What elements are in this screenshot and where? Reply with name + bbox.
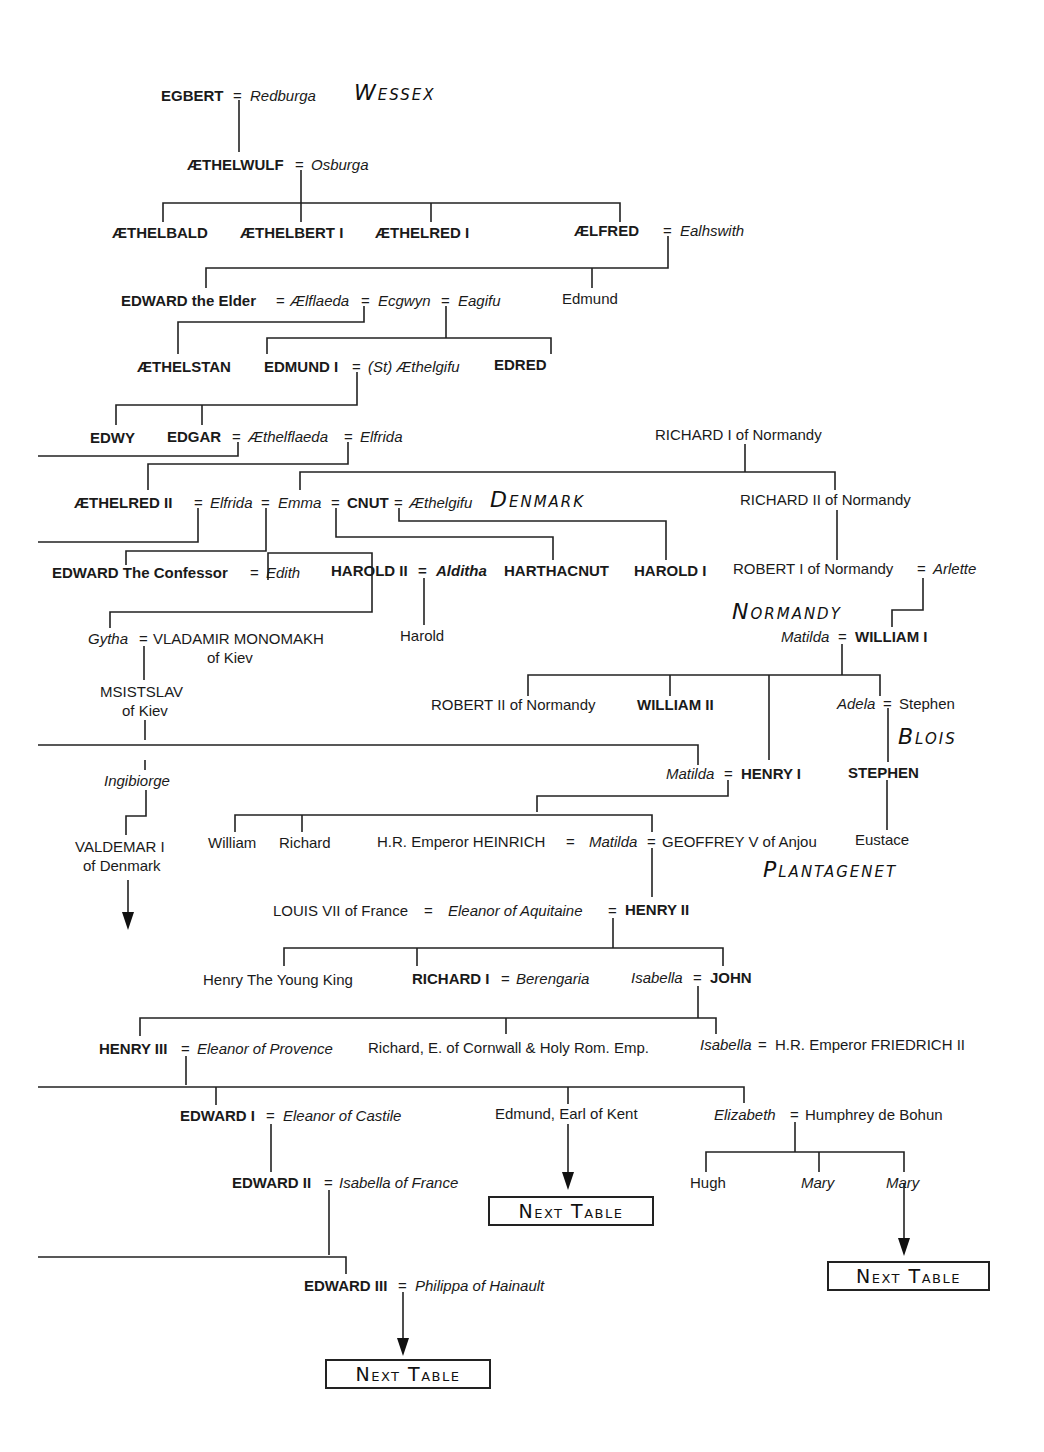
person-vladamir-monomakh: VLADAMIR MONOMAKH xyxy=(153,630,324,648)
person-robert-i-normandy: ROBERT I of Normandy xyxy=(733,560,893,578)
person-ealhswith: Ealhswith xyxy=(680,222,744,240)
person-harthacnut: HARTHACNUT xyxy=(504,562,609,580)
person-stephen-of-blois: Stephen xyxy=(899,695,955,713)
person-mary-2: Mary xyxy=(886,1174,919,1192)
marriage-sign: = xyxy=(261,494,270,512)
person-aelfred: ÆLFRED xyxy=(574,222,639,240)
marriage-sign: = xyxy=(398,1277,407,1295)
marriage-sign: = xyxy=(194,494,203,512)
person-adela: Adela xyxy=(837,695,875,713)
person-matilda-of-scotland: Matilda xyxy=(666,765,714,783)
person-aethelflaeda: Æthelflaeda xyxy=(248,428,328,446)
marriage-sign: = xyxy=(647,833,656,851)
marriage-sign: = xyxy=(663,222,672,240)
person-valdemar-i: VALDEMAR I xyxy=(75,838,165,856)
next-table-link-kent[interactable]: Next Table xyxy=(488,1196,654,1226)
person-cnut: CNUT xyxy=(347,494,389,512)
person-william: William xyxy=(208,834,256,852)
person-richard-ii-normandy: RICHARD II of Normandy xyxy=(740,491,911,509)
person-alditha: Alditha xyxy=(436,562,487,580)
person-harold-son: Harold xyxy=(400,627,444,645)
person-william-ii: WILLIAM II xyxy=(637,696,714,714)
person-edwy: EDWY xyxy=(90,429,135,447)
person-eustace: Eustace xyxy=(855,831,909,849)
marriage-sign: = xyxy=(724,765,733,783)
person-john: JOHN xyxy=(710,969,752,987)
person-richard: Richard xyxy=(279,834,331,852)
tree-connectors xyxy=(0,0,1044,1452)
person-emma: Emma xyxy=(278,494,321,512)
next-table-link-bohun[interactable]: Next Table xyxy=(827,1261,990,1291)
person-elfrida: Elfrida xyxy=(360,428,403,446)
person-arlette: Arlette xyxy=(933,560,976,578)
person-humphrey-de-bohun: Humphrey de Bohun xyxy=(805,1106,943,1124)
person-william-i: WILLIAM I xyxy=(855,628,927,646)
person-henry-iii: HENRY III xyxy=(99,1040,167,1058)
marriage-sign: = xyxy=(566,833,575,851)
marriage-sign: = xyxy=(295,156,304,174)
marriage-sign: = xyxy=(501,970,510,988)
person-osburga: Osburga xyxy=(311,156,369,174)
person-richard-i-normandy: RICHARD I of Normandy xyxy=(655,426,822,444)
marriage-sign: = xyxy=(232,428,241,446)
person-henry-i: HENRY I xyxy=(741,765,801,783)
house-label-normandy: Normandy xyxy=(732,599,842,624)
marriage-sign: = xyxy=(441,292,450,310)
person-eagifu: Eagifu xyxy=(458,292,501,310)
person-eleanor-of-provence: Eleanor of Provence xyxy=(197,1040,333,1058)
person-redburga: Redburga xyxy=(250,87,316,105)
person-aelflaeda: Ælflaeda xyxy=(290,292,349,310)
marriage-sign: = xyxy=(324,1174,333,1192)
person-edward-the-elder: EDWARD the Elder xyxy=(121,292,256,310)
person-isabella-of-france: Isabella of France xyxy=(339,1174,458,1192)
person-st-aethelgifu: (St) Æthelgifu xyxy=(368,358,460,376)
marriage-sign: = xyxy=(181,1040,190,1058)
person-edmund-earl-of-kent: Edmund, Earl of Kent xyxy=(495,1105,638,1123)
person-edred: EDRED xyxy=(494,356,547,374)
house-label-plantagenet: Plantagenet xyxy=(763,857,897,882)
marriage-sign: = xyxy=(250,564,259,582)
person-aethelstan: ÆTHELSTAN xyxy=(137,358,231,376)
person-eleanor-of-castile: Eleanor of Castile xyxy=(283,1107,401,1125)
person-egbert: EGBERT xyxy=(161,87,224,105)
person-edmund: Edmund xyxy=(562,290,618,308)
person-geoffrey-v-anjou: GEOFFREY V of Anjou xyxy=(662,833,817,851)
next-table-link-edward-iii[interactable]: Next Table xyxy=(325,1359,491,1389)
person-edward-the-confessor: EDWARD The Confessor xyxy=(52,564,228,582)
person-berengaria: Berengaria xyxy=(516,970,589,988)
marriage-sign: = xyxy=(139,630,148,648)
person-valdemar-title: of Denmark xyxy=(83,857,161,875)
marriage-sign: = xyxy=(424,902,433,920)
marriage-sign: = xyxy=(344,428,353,446)
marriage-sign: = xyxy=(418,562,427,580)
person-aethelred-ii: ÆTHELRED II xyxy=(74,494,172,512)
person-louis-vii: LOUIS VII of France xyxy=(273,902,408,920)
marriage-sign: = xyxy=(883,695,892,713)
person-edith: Edith xyxy=(266,564,300,582)
person-aethelbald: ÆTHELBALD xyxy=(112,224,208,242)
house-label-blois: Blois xyxy=(898,724,957,749)
marriage-sign: = xyxy=(838,628,847,646)
person-msistslav: MSISTSLAV xyxy=(100,683,183,701)
person-elfrida-2: Elfrida xyxy=(210,494,253,512)
person-richard-earl-of-cornwall: Richard, E. of Cornwall & Holy Rom. Emp. xyxy=(368,1039,649,1057)
person-henry-ii: HENRY II xyxy=(625,901,689,919)
person-aethelred-i: ÆTHELRED I xyxy=(375,224,469,242)
person-aethelgifu: Æthelgifu xyxy=(409,494,472,512)
marriage-sign: = xyxy=(917,560,926,578)
house-label-denmark: Denmark xyxy=(490,487,585,512)
marriage-sign: = xyxy=(331,494,340,512)
person-philippa-of-hainault: Philippa of Hainault xyxy=(415,1277,544,1295)
person-matilda-of-flanders: Matilda xyxy=(781,628,829,646)
person-mary: Mary xyxy=(801,1174,834,1192)
person-hugh: Hugh xyxy=(690,1174,726,1192)
person-friedrich-ii: H.R. Emperor FRIEDRICH II xyxy=(775,1036,965,1054)
marriage-sign: = xyxy=(233,87,242,105)
person-henry-young-king: Henry The Young King xyxy=(203,971,353,989)
person-edmund-i: EDMUND I xyxy=(264,358,338,376)
person-harold-ii: HAROLD II xyxy=(331,562,408,580)
marriage-sign: = xyxy=(608,902,617,920)
marriage-sign: = xyxy=(758,1036,767,1054)
person-aethelwulf: ÆTHELWULF xyxy=(187,156,284,174)
person-empress-matilda: Matilda xyxy=(589,833,637,851)
